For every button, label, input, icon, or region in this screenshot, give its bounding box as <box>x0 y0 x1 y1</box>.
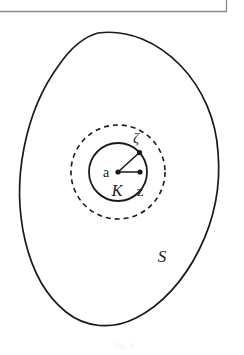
point-zeta <box>137 150 142 155</box>
label-k: K <box>111 182 124 199</box>
point-z <box>137 169 142 174</box>
label-z: z <box>137 183 144 199</box>
figure-root: ζ a K z S Fig. 1 <box>0 0 244 355</box>
figure-canvas: ζ a K z S <box>0 0 244 355</box>
figure-background <box>0 0 244 355</box>
label-zeta: ζ <box>133 130 140 146</box>
label-a: a <box>103 165 110 180</box>
label-s: S <box>158 247 167 266</box>
point-a <box>115 169 120 174</box>
figure-caption-faint: Fig. 1 <box>84 341 164 350</box>
